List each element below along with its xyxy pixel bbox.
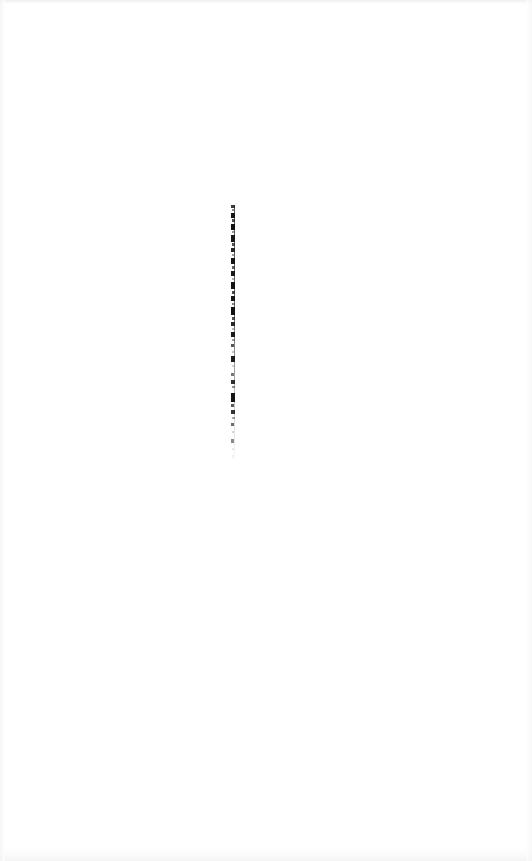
ink-mark xyxy=(231,393,235,402)
ink-mark xyxy=(231,344,234,347)
ink-mark xyxy=(231,332,235,337)
scan-edge-bottom xyxy=(0,847,532,861)
scan-edge-left xyxy=(0,0,5,861)
ink-mark xyxy=(232,231,234,233)
ink-mark xyxy=(232,303,235,305)
ink-mark xyxy=(231,322,235,326)
ink-mark xyxy=(231,410,235,414)
scanned-page xyxy=(0,0,532,861)
ink-mark xyxy=(231,258,235,264)
ink-mark xyxy=(232,455,234,458)
ink-mark xyxy=(232,328,234,330)
scan-edge-right xyxy=(526,0,532,861)
ink-mark xyxy=(231,282,235,289)
ink-mark xyxy=(231,373,234,376)
ink-mark xyxy=(232,365,234,367)
ink-mark xyxy=(232,351,234,353)
ink-mark xyxy=(231,205,235,208)
ink-mark xyxy=(232,243,235,246)
vertical-ink-strip xyxy=(230,205,237,460)
ink-mark xyxy=(232,266,235,269)
ink-mark xyxy=(231,307,235,315)
ink-mark xyxy=(232,254,235,256)
ink-mark xyxy=(231,224,235,230)
ink-mark xyxy=(231,423,234,426)
ink-mark xyxy=(231,213,235,218)
ink-mark xyxy=(232,209,235,211)
ink-mark xyxy=(231,356,235,362)
ink-mark xyxy=(231,404,234,407)
ink-mark xyxy=(232,431,234,433)
ink-mark xyxy=(231,248,235,252)
ink-mark xyxy=(232,317,235,320)
ink-mark xyxy=(231,380,235,384)
ink-mark xyxy=(232,219,235,222)
ink-mark xyxy=(232,417,235,419)
ink-mark xyxy=(232,278,234,280)
ink-mark xyxy=(232,339,235,341)
ink-mark xyxy=(232,291,235,294)
ink-mark xyxy=(232,448,234,450)
ink-mark xyxy=(231,296,235,301)
ink-mark xyxy=(231,235,235,242)
scan-edge-top xyxy=(0,0,532,4)
ink-mark xyxy=(232,386,235,388)
ink-mark xyxy=(231,271,235,276)
ink-mark xyxy=(231,439,234,443)
